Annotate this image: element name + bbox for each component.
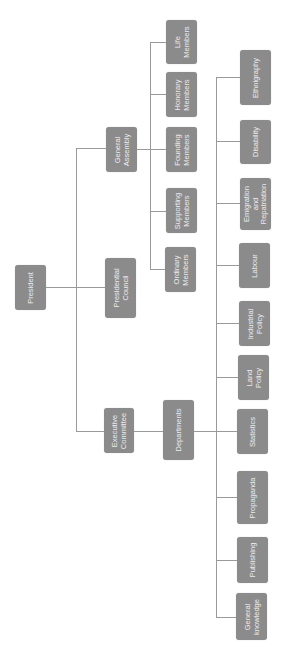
node-label: Publishing xyxy=(248,543,257,578)
node-ethnigraphy: Ethnigraphy xyxy=(240,50,271,105)
node-label: Emigration and Repatriation xyxy=(243,184,269,224)
node-label: Ethnigraphy xyxy=(251,57,260,97)
node-label: Executive Committee xyxy=(111,412,128,448)
connector-land xyxy=(216,377,240,378)
node-label: Departments xyxy=(174,409,183,452)
node-supporting-members: Supporting Members xyxy=(166,188,197,233)
node-general-knowledge: General knowledge xyxy=(236,593,267,640)
connector-ga-members xyxy=(137,149,166,150)
node-departments: Departments xyxy=(163,400,194,460)
node-emigration-repatriation: Emigration and Repatriation xyxy=(240,178,271,230)
connector-executive-committee xyxy=(76,431,104,432)
node-industrial-policy: Industrial Policy xyxy=(239,301,270,346)
node-propaganda: Propaganda xyxy=(237,471,268,524)
node-label: Ordinary Members xyxy=(172,254,189,285)
node-label: Supporting Members xyxy=(173,192,190,228)
node-label: Founding Members xyxy=(173,134,190,165)
node-label: President xyxy=(26,272,35,304)
connector-general-assembly xyxy=(76,148,106,149)
connector-main-spine xyxy=(76,148,77,431)
node-disability: Disability xyxy=(240,120,271,164)
node-label: Disability xyxy=(251,127,260,157)
node-label: Industrial Policy xyxy=(246,308,263,338)
connector-life xyxy=(150,42,166,43)
node-executive-committee: Executive Committee xyxy=(104,408,134,453)
connector-labour xyxy=(216,265,240,266)
node-labour: Labour xyxy=(239,243,270,288)
node-label: General knowledge xyxy=(243,599,260,635)
node-label: Life Members xyxy=(173,26,190,57)
connector-members-spine xyxy=(150,42,151,270)
node-presidential-council: Presidential Council xyxy=(105,258,136,318)
connector-industrial xyxy=(216,323,240,324)
node-label: Statistics xyxy=(248,416,257,446)
connector-depts-spine xyxy=(216,77,217,617)
node-general-assembly: General Assembly xyxy=(106,127,137,172)
node-honorary-members: Honorary Members xyxy=(166,72,197,117)
connector-ethnigraphy xyxy=(216,77,240,78)
node-label: General Assembly xyxy=(113,133,130,166)
connector-presidential-council xyxy=(76,287,105,288)
connector-ordinary xyxy=(150,269,166,270)
node-life-members: Life Members xyxy=(166,20,197,64)
node-ordinary-members: Ordinary Members xyxy=(165,247,196,292)
connector-exec-departments xyxy=(134,431,163,432)
node-founding-members: Founding Members xyxy=(166,127,197,172)
node-label: Land Policy xyxy=(245,367,262,387)
connector-honorary xyxy=(150,94,166,95)
connector-president xyxy=(46,287,76,288)
connector-supporting xyxy=(150,211,166,212)
node-president: President xyxy=(15,265,46,310)
node-statistics: Statistics xyxy=(237,409,268,454)
node-label: Honorary Members xyxy=(173,79,190,110)
connector-emigration xyxy=(216,203,240,204)
node-label: Labour xyxy=(250,254,259,277)
connector-disability xyxy=(216,141,240,142)
node-label: Presidential Council xyxy=(112,268,129,307)
node-label: Propaganda xyxy=(248,477,257,518)
node-land-policy: Land Policy xyxy=(238,355,269,400)
node-publishing: Publishing xyxy=(237,537,268,583)
